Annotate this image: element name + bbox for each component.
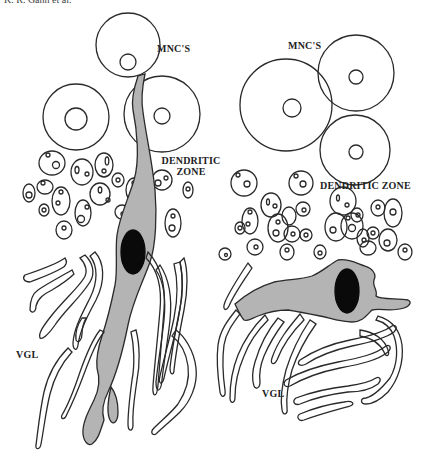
right-mnc-cluster	[240, 35, 394, 185]
right-dendritic-zone-label: DENDRITIC ZONE	[320, 180, 411, 191]
left-dendritic-label-line2: ZONE	[160, 166, 222, 177]
left-dendritic-zone-label: DENDRITIC ZONE	[160, 155, 222, 177]
right-vgl-label: VGL	[262, 388, 284, 399]
left-dendritic-label-line1: DENDRITIC	[160, 155, 222, 166]
left-vgl-label: VGL	[16, 349, 38, 360]
right-mnc-label: MNC'S	[288, 40, 321, 51]
left-mnc-label: MNC'S	[157, 43, 190, 54]
right-neuron-body	[235, 260, 410, 322]
left-mnc-cluster	[43, 13, 200, 152]
right-nucleus	[335, 269, 359, 313]
figure-canvas	[0, 0, 432, 456]
left-nucleus	[121, 230, 145, 274]
